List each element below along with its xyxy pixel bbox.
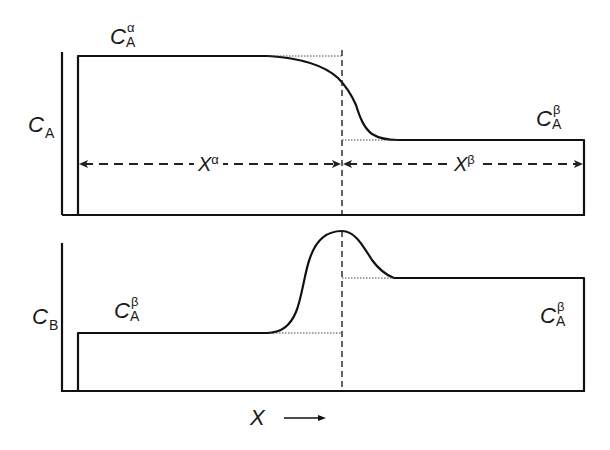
label-main: C bbox=[536, 106, 552, 131]
label-main: C bbox=[114, 298, 130, 323]
bottom-y-axis-label: CB bbox=[32, 306, 58, 328]
bottom-concentration-profile-cb bbox=[78, 231, 584, 391]
bottom-level-right-label: CβA bbox=[540, 305, 570, 327]
region-beta-label: Xβ bbox=[450, 154, 479, 174]
y-label-main: C bbox=[32, 304, 48, 329]
label-main: C bbox=[540, 303, 556, 328]
label-sup: β bbox=[131, 295, 138, 308]
top-level-right-label: CβA bbox=[536, 108, 566, 130]
x-axis-label: X bbox=[250, 407, 265, 429]
bottom-level-left-label: CβA bbox=[114, 300, 144, 322]
region-alpha-label: Xα bbox=[194, 154, 223, 174]
x-direction-arrowhead-icon bbox=[318, 415, 326, 421]
top-y-axis-label: CA bbox=[28, 114, 54, 136]
y-label-sub: A bbox=[45, 125, 54, 141]
label-sup: β bbox=[467, 152, 474, 167]
label-main: X bbox=[198, 153, 211, 175]
top-level-left-label: CαA bbox=[110, 26, 140, 48]
label-sub: A bbox=[552, 117, 561, 131]
y-label-main: C bbox=[28, 112, 44, 137]
arrowhead-interface-left-icon bbox=[332, 160, 341, 168]
x-label-text: X bbox=[250, 405, 265, 430]
label-sup: β bbox=[553, 103, 560, 116]
label-sub: A bbox=[130, 309, 139, 323]
label-sup: α bbox=[127, 21, 135, 34]
diagram-canvas bbox=[0, 0, 610, 450]
top-concentration-profile-ca bbox=[78, 56, 584, 215]
reference-lines bbox=[268, 56, 398, 333]
label-sub: A bbox=[126, 35, 135, 49]
label-sup: α bbox=[211, 152, 219, 167]
label-sup: β bbox=[557, 300, 564, 313]
label-main: X bbox=[454, 153, 467, 175]
y-label-sub: B bbox=[49, 317, 58, 333]
label-main: C bbox=[110, 24, 126, 49]
label-sub: A bbox=[556, 314, 565, 328]
